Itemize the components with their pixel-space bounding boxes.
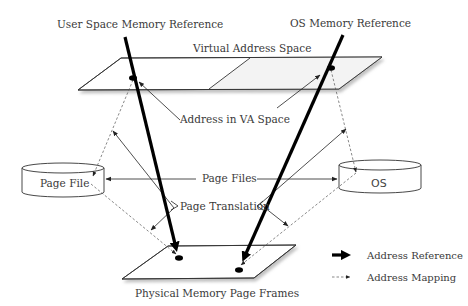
user-va-address-dot [129, 75, 137, 81]
page-files-label: Page Files [202, 172, 257, 184]
os-label: OS [371, 177, 387, 190]
address-mapping-lines [91, 70, 356, 265]
physical-memory-plane [122, 245, 296, 279]
os-va-address-dot [327, 65, 335, 71]
virtual-memory-diagram: User Space Memory Reference OS Memory Re… [0, 0, 468, 306]
virtual-address-space-label: Virtual Address Space [192, 42, 311, 54]
user-space-reference-label: User Space Memory Reference [57, 18, 223, 30]
virtual-address-space-plane [78, 57, 382, 90]
os-reference-label: OS Memory Reference [290, 17, 411, 29]
legend-label: Address Reference [366, 250, 463, 261]
user-physical-frame-dot [175, 255, 183, 261]
legend-item-address-mapping: Address Mapping [332, 272, 457, 283]
legend-item-address-reference: Address Reference [332, 250, 463, 261]
page-file-label: Page File [40, 177, 89, 189]
os-physical-frame-dot [235, 267, 243, 273]
legend: Address Reference Address Mapping [332, 250, 463, 283]
physical-memory-label: Physical Memory Page Frames [135, 287, 299, 299]
legend-label: Address Mapping [366, 272, 457, 283]
address-in-va-space-label: Address in VA Space [179, 113, 290, 125]
